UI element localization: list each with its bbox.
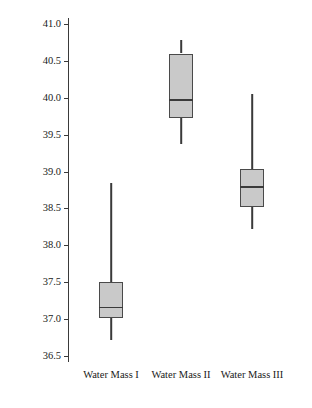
whisker-lower <box>180 118 182 143</box>
whisker-lower <box>110 318 112 340</box>
median-line <box>169 99 193 101</box>
whisker-upper <box>251 94 253 169</box>
y-axis-tick-label: 40.5 <box>27 56 61 67</box>
box-iqr <box>99 282 123 317</box>
whisker-upper <box>110 183 112 283</box>
y-axis-tick-label: 41.0 <box>27 19 61 30</box>
box-iqr <box>169 54 193 119</box>
y-axis-tick-label: 38.0 <box>27 240 61 251</box>
x-axis-category-label: Water Mass II <box>151 370 210 381</box>
y-axis-tick-label: 40.0 <box>27 93 61 104</box>
whisker-upper <box>180 40 182 53</box>
y-axis-tick-label: 36.5 <box>27 351 61 362</box>
median-line <box>99 307 123 309</box>
y-axis-title: Salinity (parts per thousand) <box>2 0 28 26</box>
whisker-lower <box>251 207 253 229</box>
median-line <box>240 186 264 188</box>
y-axis-tick-label: 38.5 <box>27 203 61 214</box>
x-axis-category-label: Water Mass I <box>83 370 139 381</box>
x-axis-category-label: Water Mass III <box>221 370 284 381</box>
box-plot-chart: Salinity (parts per thousand) 41.040.540… <box>0 0 312 408</box>
y-axis-tick-label: 37.0 <box>27 314 61 325</box>
y-axis-tick-label: 39.5 <box>27 129 61 140</box>
y-axis-tick-label: 39.0 <box>27 166 61 177</box>
y-axis-tick-label: 37.5 <box>27 277 61 288</box>
y-axis-line <box>68 18 69 362</box>
